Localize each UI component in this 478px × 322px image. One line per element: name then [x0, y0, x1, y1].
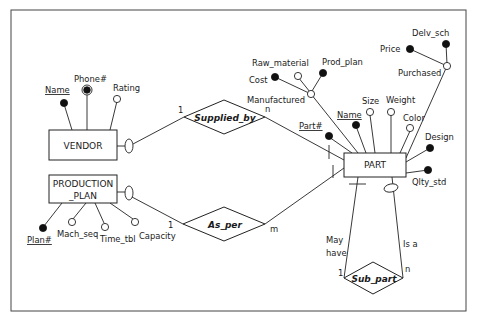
plan-attr-time-tbl: Time_tbl [99, 234, 136, 244]
key-attribute-icon [406, 45, 413, 52]
optional-attribute-icon [406, 124, 413, 131]
optional-participation-icon [125, 186, 133, 200]
purchased-junction-icon [443, 62, 450, 69]
optional-attribute-icon [101, 223, 108, 230]
optional-attribute-icon [68, 218, 75, 225]
optional-participation-icon [383, 183, 398, 194]
is-a-link [392, 177, 403, 278]
part-attr-price: Price [380, 44, 400, 54]
part-attr-prod-plan: Prod_plan [322, 57, 363, 67]
sub-part-role-may: May [326, 235, 343, 245]
optional-attribute-icon [131, 218, 138, 225]
part-attr-qlty-std: Qlty_std [412, 177, 446, 187]
supplied-by-card-vendor: 1 [178, 105, 183, 115]
optional-attribute-icon [366, 108, 373, 115]
sub-part-role-have: have [326, 248, 347, 258]
vendor-attr-rating: Rating [113, 83, 140, 93]
as-per-card-part: m [270, 224, 278, 234]
key-attribute-icon [319, 69, 326, 76]
part-attr-purchased: Purchased [398, 68, 441, 78]
may-have-link [344, 177, 358, 278]
part-attr-part-no: Part# [299, 121, 323, 131]
production-plan-entity: PRODUCTION _PLAN [44, 175, 133, 226]
key-attribute-icon [60, 99, 67, 106]
optional-attribute-icon [113, 95, 120, 102]
er-diagram: VENDOR Name Phone# Rating PRODUCTION _PL… [0, 0, 478, 322]
vendor-label: VENDOR [64, 141, 103, 151]
part-label: PART [364, 160, 387, 170]
production-plan-label-line2: _PLAN [68, 191, 97, 201]
as-per-label: As_per [207, 220, 242, 230]
multivalued-attribute-inner-icon [84, 87, 91, 94]
key-attribute-icon [442, 40, 449, 47]
production-plan-label-line1: PRODUCTION [53, 179, 114, 189]
optional-attribute-icon [387, 108, 394, 115]
part-attr-design: Design [425, 132, 454, 142]
purchased-link [406, 66, 447, 158]
part-attr-name: Name [337, 110, 362, 120]
key-attribute-icon [426, 144, 433, 151]
vendor-attr-phone: Phone# [74, 74, 107, 84]
part-attr-color: Color [403, 113, 425, 123]
plan-attr-capacity: Capacity [139, 231, 176, 241]
optional-participation-icon [125, 139, 133, 153]
key-attribute-icon [39, 224, 46, 231]
vendor-entity: VENDOR [49, 93, 117, 160]
part-attr-size: Size [362, 96, 379, 106]
supplied-by-label: Supplied_by [194, 113, 256, 123]
plan-attr-plan: Plan# [27, 235, 52, 245]
sub-part-card-right: n [405, 264, 410, 274]
part-attr-delv-sch: Delv_sch [412, 28, 449, 38]
sub-part-card-left: 1 [338, 268, 343, 278]
key-attribute-icon [271, 73, 278, 80]
as-per-card-plan: 1 [168, 220, 173, 230]
manufactured-junction-icon [307, 90, 314, 97]
optional-attribute-icon [294, 72, 301, 79]
sub-part-role-is-a: Is a [403, 239, 418, 249]
vendor-attr-name: Name [45, 85, 70, 95]
as-per-part-link [265, 168, 344, 224]
part-attr-raw-material: Raw_material [252, 58, 309, 68]
supplied-by-card-part: n [265, 104, 270, 114]
part-attr-cost: Cost [249, 75, 268, 85]
key-attribute-icon [424, 166, 431, 173]
key-attribute-icon [325, 132, 332, 139]
part-attr-manufactured: Manufactured [247, 95, 305, 105]
plan-attr-mach-seq: Mach_seq [57, 229, 98, 239]
part-attr-weight: Weight [386, 95, 416, 105]
sub-part-label: Sub_part [351, 274, 397, 284]
key-attribute-icon [352, 121, 359, 128]
